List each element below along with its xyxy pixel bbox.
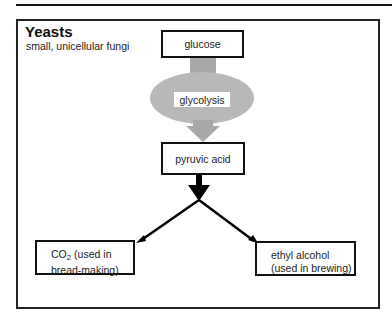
branch-line-co2 — [140, 200, 199, 241]
gray-arrowhead-icon — [186, 126, 220, 142]
node-co2-line2: bread-making) — [51, 264, 133, 277]
node-glucose: glucose — [161, 30, 244, 58]
black-arrowhead-icon — [188, 185, 210, 201]
node-co2: CO2 (used in bread-making) — [35, 240, 135, 275]
branch-line-ethanol — [199, 200, 254, 241]
node-pyruvic-acid-label: pyruvic acid — [175, 153, 230, 165]
black-arrow-shaft — [196, 173, 202, 187]
node-ethyl-alcohol-line2: (used in brewing) — [271, 262, 354, 275]
node-ethyl-alcohol: ethyl alcohol (used in brewing) — [255, 241, 356, 276]
node-ethyl-alcohol-line1: ethyl alcohol — [271, 249, 354, 262]
node-co2-line1: CO2 (used in — [51, 248, 133, 264]
node-glucose-label: glucose — [184, 38, 220, 50]
arrowhead-co2-icon — [136, 235, 146, 243]
node-glycolysis-label: glycolysis — [174, 92, 230, 107]
node-pyruvic-acid: pyruvic acid — [161, 142, 245, 175]
